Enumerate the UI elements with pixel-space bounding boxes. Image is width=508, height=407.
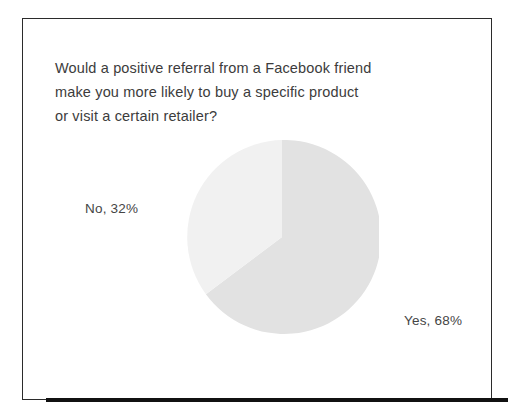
page-title: Would a positive referral from a Faceboo… [55, 56, 455, 128]
pie-chart [185, 140, 379, 334]
pie-label-no: No, 32% [85, 201, 138, 216]
bottom-divider [46, 398, 508, 402]
pie-label-yes: Yes, 68% [404, 313, 462, 328]
slide-frame: Would a positive referral from a Faceboo… [22, 18, 492, 400]
pie-chart-svg [185, 140, 379, 334]
